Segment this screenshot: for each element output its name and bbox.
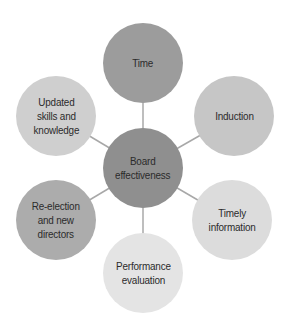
center-node-label: Board effectiveness <box>115 154 170 182</box>
node-label: Performance evaluation <box>116 259 171 287</box>
node-timely-information: Timely information <box>192 180 272 260</box>
node-induction: Induction <box>194 76 274 156</box>
node-label: Time <box>133 56 154 70</box>
node-re-election: Re-election and new directors <box>16 180 96 260</box>
node-performance-evaluation: Performance evaluation <box>103 233 183 313</box>
node-label: Updated skills and knowledge <box>33 95 79 137</box>
node-label: Induction <box>215 109 254 123</box>
node-time: Time <box>103 23 183 103</box>
center-node-board-effectiveness: Board effectiveness <box>103 128 183 208</box>
node-label: Timely information <box>209 206 256 234</box>
node-updated-skills: Updated skills and knowledge <box>16 76 96 156</box>
node-label: Re-election and new directors <box>32 199 80 241</box>
